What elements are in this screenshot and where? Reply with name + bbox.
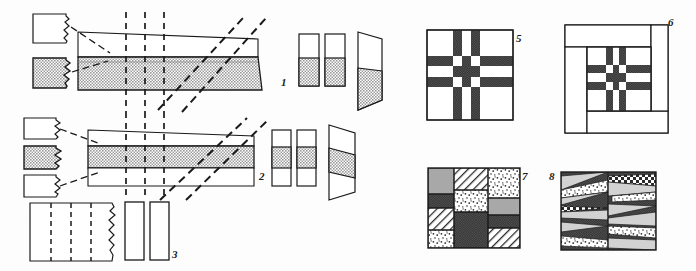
mosaic7-block-2	[454, 168, 488, 190]
panel-label-1: 1	[281, 76, 287, 88]
mosaic7-block-11	[488, 228, 520, 248]
panel-6-framed-lattice	[565, 25, 668, 133]
block-3-main-with-torn-edge	[30, 203, 115, 261]
panel-label-2: 2	[259, 170, 265, 182]
sample-block-2-white-top	[24, 118, 60, 139]
figure-root: 1 2 3 5 6 7 8	[0, 0, 696, 271]
panel-5-lattice-grid	[427, 30, 513, 120]
sample-column-2b	[297, 130, 316, 186]
panel-label-6: 6	[668, 16, 674, 28]
geological-texture-figure	[0, 0, 696, 271]
panel-label-5: 5	[516, 32, 522, 44]
panel-label-7: 7	[522, 170, 528, 182]
grid6-vstripe-b	[619, 47, 626, 111]
sample-column-1b	[325, 34, 345, 86]
mosaic7-block-3	[488, 168, 520, 198]
mosaic7-block-10	[428, 230, 454, 248]
sample-block-1-white	[33, 14, 69, 43]
wedge8-r7	[608, 238, 656, 250]
parallelogram-projection-1	[358, 32, 382, 110]
sample-column-3b	[150, 202, 169, 260]
sample-block-2-gray-mid	[24, 146, 61, 169]
mosaic7-block-4	[454, 190, 488, 212]
panel-7-texture-mosaic	[428, 168, 520, 248]
wedge8-l5	[561, 210, 608, 220]
grid5-hstripe-a	[427, 56, 513, 66]
panel-8-wedge-mosaic	[561, 172, 656, 250]
parallelogram-projection-2	[329, 125, 355, 200]
sample-block-2-white-bottom	[24, 175, 60, 197]
mosaic7-block-8	[454, 212, 488, 248]
grid5-hstripe-b	[427, 77, 513, 87]
band-2-middle-gray-layer	[88, 146, 254, 168]
sample-column-1a	[299, 34, 319, 86]
sample-column-3a	[125, 202, 144, 260]
sample-block-1-gray	[33, 58, 70, 88]
mosaic7-block-7	[428, 208, 454, 230]
panel-label-8: 8	[549, 170, 555, 182]
mosaic7-block-5	[428, 194, 454, 208]
mosaic7-block-9	[488, 215, 520, 228]
mosaic7-block-1	[428, 168, 454, 194]
panel-label-3: 3	[172, 248, 178, 260]
band-2-lower-white-layer	[88, 168, 254, 186]
sample-column-2a	[272, 130, 291, 186]
grid5-vstripe-a	[453, 30, 462, 120]
grid6-vstripe-a	[606, 47, 613, 111]
mosaic7-block-6	[488, 198, 520, 215]
grid5-vstripe-b	[471, 30, 480, 120]
